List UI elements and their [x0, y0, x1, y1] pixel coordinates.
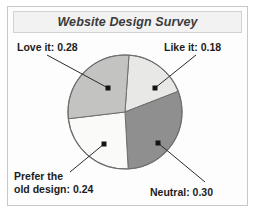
pie-label-prefer-old-design: Prefer the old design: 0.24	[14, 170, 93, 196]
leader-dot-like-it	[153, 86, 158, 91]
leader-dot-love-it	[106, 86, 111, 91]
leader-dot-prefer-old-design	[102, 142, 107, 147]
pie-label-prefer-line1: Prefer the	[14, 170, 93, 183]
pie-label-like-it: Like it: 0.18	[164, 41, 221, 54]
leader-dot-neutral	[156, 141, 161, 146]
pie-label-neutral: Neutral: 0.30	[150, 186, 213, 199]
pie-label-prefer-line2: old design: 0.24	[14, 183, 93, 196]
pie-slices	[68, 55, 182, 169]
pie-chart-figure: Website Design Survey Love it: 0.28 Like…	[0, 0, 257, 214]
pie-slice-love-it	[68, 55, 129, 119]
pie-slice-prefer-the-old-design	[68, 112, 128, 169]
leader-line-neutral	[158, 143, 205, 182]
pie-label-love-it: Love it: 0.28	[17, 41, 78, 54]
